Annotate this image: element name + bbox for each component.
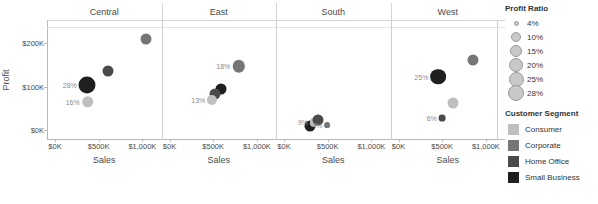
data-point[interactable] bbox=[448, 98, 459, 109]
color-legend-label: Home Office bbox=[525, 157, 569, 166]
data-point[interactable] bbox=[103, 65, 114, 76]
x-tick-mark bbox=[142, 139, 143, 142]
size-legend-label: 15% bbox=[527, 47, 543, 56]
panel-west bbox=[391, 21, 506, 139]
x-tick-label: $500K bbox=[431, 142, 453, 151]
color-legend-swatch bbox=[508, 156, 519, 167]
data-point[interactable] bbox=[439, 115, 446, 122]
x-tick-mark bbox=[486, 139, 487, 142]
size-legend-entries: 4%10%15%20%25%28% bbox=[505, 16, 598, 100]
x-tick-label: $0K bbox=[48, 142, 61, 151]
size-legend-label: 25% bbox=[527, 75, 543, 84]
x-axis-title: Sales bbox=[47, 155, 162, 167]
x-tick-mark bbox=[371, 139, 372, 142]
facet-header-separator bbox=[162, 3, 163, 20]
x-tick-label: $500K bbox=[88, 142, 110, 151]
x-axis-title: Sales bbox=[162, 155, 277, 167]
color-legend-label: Small Business bbox=[525, 173, 580, 182]
size-legend-circle-slot bbox=[505, 21, 527, 26]
facet-header-separator bbox=[391, 3, 392, 20]
data-point[interactable] bbox=[467, 55, 478, 66]
size-legend-circle bbox=[508, 85, 524, 101]
size-legend-label: 20% bbox=[527, 61, 543, 70]
size-legend-circle-slot bbox=[505, 58, 527, 72]
data-point-label: 18% bbox=[216, 63, 231, 70]
facet-header-west: West bbox=[391, 4, 506, 20]
data-point[interactable] bbox=[141, 33, 152, 44]
facet-header-separator bbox=[276, 3, 277, 20]
x-tick-label: $1,000K bbox=[243, 142, 271, 151]
x-tick-label: $1,000K bbox=[128, 142, 156, 151]
data-point[interactable] bbox=[430, 69, 446, 85]
color-legend-row[interactable]: Home Office bbox=[505, 153, 598, 169]
data-point-label: 4% bbox=[312, 122, 323, 129]
size-legend-row[interactable]: 4% bbox=[505, 16, 598, 30]
size-legend-row[interactable]: 20% bbox=[505, 58, 598, 72]
size-legend-row[interactable]: 15% bbox=[505, 44, 598, 58]
data-point[interactable] bbox=[79, 76, 96, 93]
panel-south bbox=[276, 21, 391, 139]
x-tick-mark bbox=[213, 139, 214, 142]
x-tick-mark bbox=[328, 139, 329, 142]
x-tick-label: $0K bbox=[277, 142, 290, 151]
x-tick-label: $1,000K bbox=[472, 142, 500, 151]
size-legend-label: 10% bbox=[527, 33, 543, 42]
size-legend-circle bbox=[510, 45, 522, 57]
x-tick-mark bbox=[170, 139, 171, 142]
facet-header-south: South bbox=[276, 4, 391, 20]
size-legend-row[interactable]: 25% bbox=[505, 72, 598, 86]
color-legend-row[interactable]: Corporate bbox=[505, 137, 598, 153]
size-legend-circle-slot bbox=[505, 45, 527, 57]
color-legend-swatch bbox=[508, 124, 519, 135]
x-tick-label: $500K bbox=[317, 142, 339, 151]
color-legend-title: Customer Segment bbox=[505, 109, 598, 118]
size-legend-row[interactable]: 28% bbox=[505, 86, 598, 100]
x-tick-label: $500K bbox=[202, 142, 224, 151]
data-point-label: 28% bbox=[63, 81, 78, 88]
size-legend-label: 28% bbox=[527, 89, 543, 98]
color-legend-row[interactable]: Consumer bbox=[505, 121, 598, 137]
legend-spacer bbox=[505, 100, 598, 109]
size-legend-row[interactable]: 10% bbox=[505, 30, 598, 44]
x-tick-mark bbox=[442, 139, 443, 142]
x-tick-mark bbox=[284, 139, 285, 142]
data-point-label: 9% bbox=[298, 119, 309, 126]
x-tick-label: $0K bbox=[163, 142, 176, 151]
data-point-label: 25% bbox=[414, 73, 429, 80]
size-legend-circle bbox=[511, 32, 521, 42]
size-legend-circle-slot bbox=[505, 85, 527, 101]
data-point[interactable] bbox=[324, 122, 330, 128]
x-tick-mark bbox=[257, 139, 258, 142]
data-point[interactable] bbox=[82, 96, 94, 108]
x-tick-mark bbox=[55, 139, 56, 142]
scatter-plot-visualization: CentralEastSouthWest Profit $0K$100K$200… bbox=[0, 0, 598, 204]
x-axis-title: Sales bbox=[276, 155, 391, 167]
legend-divider bbox=[497, 21, 498, 140]
size-legend-circle bbox=[514, 21, 519, 26]
color-legend-swatch bbox=[508, 172, 519, 183]
facet-header-east: East bbox=[162, 4, 277, 20]
size-legend-circle bbox=[509, 58, 523, 72]
data-point-label: 6% bbox=[427, 115, 438, 122]
data-point-label: 16% bbox=[66, 98, 81, 105]
color-legend-label: Corporate bbox=[525, 141, 561, 150]
y-tick-label: $100K bbox=[0, 82, 50, 91]
data-point-label: 13% bbox=[191, 96, 206, 103]
legend-panel: Profit Ratio 4%10%15%20%25%28% Customer … bbox=[505, 4, 598, 185]
x-axis-title: Sales bbox=[391, 155, 506, 167]
color-legend-row[interactable]: Small Business bbox=[505, 169, 598, 185]
size-legend-circle-slot bbox=[505, 32, 527, 42]
facet-header-central: Central bbox=[47, 4, 162, 20]
x-tick-mark bbox=[99, 139, 100, 142]
color-legend-swatch bbox=[508, 140, 519, 151]
x-tick-mark bbox=[399, 139, 400, 142]
x-tick-label: $0K bbox=[392, 142, 405, 151]
y-tick-label: $200K bbox=[0, 38, 50, 47]
color-legend-entries: ConsumerCorporateHome OfficeSmall Busine… bbox=[505, 121, 598, 185]
y-tick-label: $0K bbox=[0, 126, 50, 135]
size-legend-label: 4% bbox=[527, 19, 539, 28]
color-legend-label: Consumer bbox=[525, 125, 562, 134]
panel-east bbox=[162, 21, 277, 139]
size-legend-title: Profit Ratio bbox=[505, 4, 598, 13]
x-tick-label: $1,000K bbox=[357, 142, 385, 151]
